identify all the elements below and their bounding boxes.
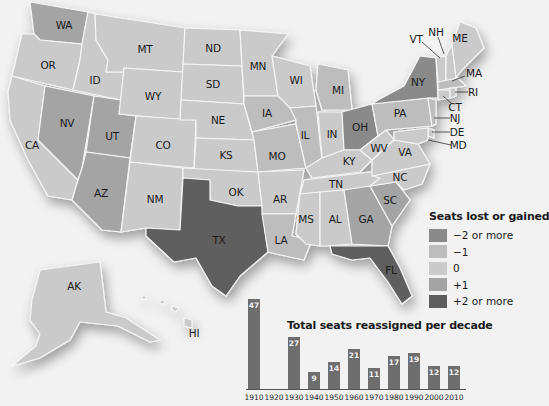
label-ID: ID xyxy=(90,74,101,86)
label-HI: HI xyxy=(189,327,200,339)
label-IN: IN xyxy=(327,128,338,140)
legend-item-plus1: +1 xyxy=(429,277,549,294)
label-OH: OH xyxy=(352,121,368,133)
label-ME: ME xyxy=(452,32,467,44)
label-MO: MO xyxy=(269,150,286,162)
label-ND: ND xyxy=(205,42,221,54)
label-NC: NC xyxy=(393,171,408,183)
x-tick: 1960 xyxy=(344,393,363,402)
label-DE: DE xyxy=(450,126,464,138)
bar-value: 27 xyxy=(288,339,300,348)
x-tick: 1970 xyxy=(364,393,383,402)
label-MN: MN xyxy=(250,60,267,72)
x-tick: 1930 xyxy=(284,393,303,402)
state-VT[interactable] xyxy=(436,56,446,82)
chart-title: Total seats reassigned per decade xyxy=(287,319,493,332)
label-WA: WA xyxy=(56,19,73,31)
bar-2000: 12 xyxy=(428,366,440,389)
state-AR[interactable] xyxy=(258,170,304,214)
label-CO: CO xyxy=(155,139,170,151)
bar-1950: 14 xyxy=(328,362,340,389)
label-IL: IL xyxy=(301,129,310,141)
state-AK[interactable] xyxy=(12,262,160,366)
legend-label: +2 or more xyxy=(453,295,513,307)
label-WV: WV xyxy=(370,142,387,154)
state-HI[interactable] xyxy=(142,296,192,328)
legend-swatch xyxy=(429,278,447,291)
label-RI: RI xyxy=(468,86,478,98)
bar-1980: 17 xyxy=(388,356,400,389)
label-UT: UT xyxy=(105,130,119,142)
label-VT: VT xyxy=(409,33,422,45)
x-tick: 2000 xyxy=(424,393,443,402)
legend-swatch xyxy=(429,262,447,275)
label-OR: OR xyxy=(40,59,55,71)
bar-2010: 12 xyxy=(448,366,460,389)
legend-label: 0 xyxy=(453,262,460,274)
leader-MD xyxy=(428,140,451,145)
label-NH: NH xyxy=(428,26,443,38)
state-NY[interactable] xyxy=(372,56,438,104)
legend-item-minus2: −2 or more xyxy=(429,227,549,244)
x-tick: 2010 xyxy=(444,393,463,402)
bar-1970: 11 xyxy=(368,368,380,389)
label-FL: FL xyxy=(385,264,397,276)
label-AR: AR xyxy=(273,193,287,205)
label-AK: AK xyxy=(67,280,81,292)
bar-1910: 47 xyxy=(248,299,260,389)
bar-1930: 27 xyxy=(288,337,300,389)
leader-NH xyxy=(438,37,444,54)
label-KS: KS xyxy=(219,149,232,161)
state-FL[interactable] xyxy=(330,246,412,304)
legend-item-zero: 0 xyxy=(429,260,549,277)
label-WY: WY xyxy=(145,90,161,102)
x-tick: 1920 xyxy=(264,393,283,402)
legend-label: +1 xyxy=(453,279,468,291)
label-AL: AL xyxy=(329,213,342,225)
label-MT: MT xyxy=(137,43,152,55)
bar-value: 17 xyxy=(388,358,400,367)
label-MA: MA xyxy=(466,67,482,79)
label-WI: WI xyxy=(289,74,302,86)
label-CA: CA xyxy=(25,139,39,151)
legend-item-minus1: −1 xyxy=(429,244,549,261)
label-VA: VA xyxy=(398,146,411,158)
label-OK: OK xyxy=(229,186,244,198)
state-CT[interactable] xyxy=(438,90,450,100)
label-NM: NM xyxy=(147,193,164,205)
bar-1960: 21 xyxy=(348,349,360,389)
bar-1940: 9 xyxy=(308,372,320,389)
label-SC: SC xyxy=(383,194,397,206)
state-DE[interactable] xyxy=(428,128,434,138)
legend-swatch xyxy=(429,295,447,308)
label-MS: MS xyxy=(298,213,313,225)
state-RI[interactable] xyxy=(450,88,456,98)
bar-value: 14 xyxy=(328,364,340,373)
x-tick: 1980 xyxy=(384,393,403,402)
x-tick: 1940 xyxy=(304,393,323,402)
bar-value: 9 xyxy=(308,374,320,383)
x-tick: 1950 xyxy=(324,393,343,402)
bar-value: 11 xyxy=(368,370,380,379)
label-PA: PA xyxy=(394,107,406,119)
x-tick: 1910 xyxy=(244,393,263,402)
label-TX: TX xyxy=(212,234,225,246)
label-KY: KY xyxy=(343,155,356,167)
label-NV: NV xyxy=(60,117,75,129)
bar-value: 19 xyxy=(408,355,420,364)
label-TN: TN xyxy=(329,178,343,190)
label-GA: GA xyxy=(359,213,374,225)
legend-label: −1 xyxy=(453,246,468,258)
label-MD: MD xyxy=(450,139,467,151)
legend-label: −2 or more xyxy=(453,229,513,241)
label-IA: IA xyxy=(262,107,272,119)
label-AZ: AZ xyxy=(94,187,108,199)
legend-swatch xyxy=(429,245,447,258)
legend-item-plus2: +2 or more xyxy=(429,293,549,310)
label-LA: LA xyxy=(275,234,288,246)
legend: Seats lost or gained −2 or more −1 0 +1 … xyxy=(429,210,549,310)
label-NE: NE xyxy=(211,114,225,126)
bar-value: 47 xyxy=(248,301,260,310)
label-SD: SD xyxy=(206,78,220,90)
